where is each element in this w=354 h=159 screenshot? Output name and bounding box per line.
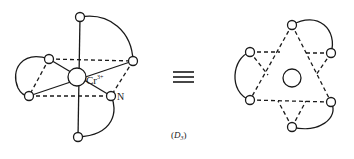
chelate-arc	[292, 102, 333, 129]
ligand-node-n	[107, 92, 116, 101]
dashed-edge	[250, 100, 331, 102]
nitrogen-label: N	[117, 91, 124, 102]
ligand-node	[288, 21, 297, 30]
chelate-arc	[235, 52, 250, 100]
ligand-node	[288, 123, 297, 132]
dashed-edge	[250, 25, 292, 100]
ligand-node	[129, 57, 138, 66]
ligand-node	[74, 133, 83, 142]
octahedral-complex-diagram: Cr3+ N (D3)	[0, 0, 354, 159]
caption-d3: (D3)	[171, 130, 187, 141]
chelate-arc	[80, 16, 133, 61]
metal-center-node	[68, 68, 86, 86]
chelate-arc	[292, 20, 332, 53]
ligand-node	[246, 48, 255, 57]
ligand-node	[327, 49, 336, 58]
left-octahedral-complex: Cr3+ N	[16, 13, 138, 142]
right-d3-projection	[235, 20, 336, 132]
dashed-edge	[49, 59, 133, 61]
chelate-arc	[78, 96, 114, 137]
metal-label: Cr3+	[86, 74, 104, 86]
ligand-node	[76, 13, 85, 22]
metal-center-node	[283, 69, 301, 87]
ligand-node	[45, 55, 54, 64]
equivalence-sign	[173, 72, 194, 82]
ligand-node	[25, 92, 34, 101]
ligand-node	[246, 96, 255, 105]
ligand-node	[327, 98, 336, 107]
dashed-edge	[292, 25, 331, 102]
